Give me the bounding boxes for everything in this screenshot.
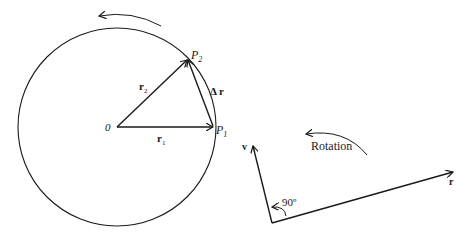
vector-r2-label: r2 <box>139 80 148 95</box>
angle-label: 90º <box>282 196 297 208</box>
delta-r-label: Δ r <box>210 85 224 97</box>
circular-motion-diagram: 0 P1 P2 r1 r2 Δ r v r 90º Rotation <box>0 0 467 235</box>
point-p2-label: P2 <box>190 48 202 64</box>
rotation-label: Rotation <box>311 139 352 153</box>
point-p1-label: P1 <box>215 123 227 139</box>
vector-r2 <box>117 60 187 127</box>
velocity-label: v <box>242 141 247 152</box>
origin-label: 0 <box>105 121 111 133</box>
right-diagram: v r 90º Rotation <box>242 133 454 223</box>
vector-r <box>272 172 453 223</box>
vector-v <box>253 146 272 223</box>
left-diagram: 0 P1 P2 r1 r2 Δ r <box>18 14 227 226</box>
rotation-arc-arrow-icon <box>99 14 161 26</box>
vector-r1-label: r1 <box>157 132 166 147</box>
radius-label: r <box>449 176 454 187</box>
right-angle-arc-icon <box>272 207 286 216</box>
